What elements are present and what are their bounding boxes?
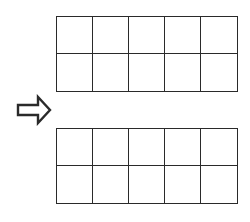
right-arrow-icon	[14, 94, 54, 126]
grid-cell	[57, 17, 93, 54]
grid-cell	[93, 17, 129, 54]
grid-cell	[165, 166, 201, 203]
grid-cell	[129, 17, 165, 54]
grid-cell	[201, 17, 237, 54]
grid-cell	[93, 54, 129, 91]
grid-cell	[165, 17, 201, 54]
grid-cell	[201, 54, 237, 91]
grid-cell	[57, 54, 93, 91]
grid-cell	[57, 166, 93, 203]
grid-cell	[165, 129, 201, 166]
grid-cell	[93, 129, 129, 166]
grid-cell	[129, 166, 165, 203]
grid-cell	[165, 54, 201, 91]
top-grid	[56, 16, 238, 92]
grid-cell	[201, 129, 237, 166]
grid-cell	[201, 166, 237, 203]
grid-cell	[93, 166, 129, 203]
bottom-grid	[56, 128, 238, 204]
grid-cell	[129, 54, 165, 91]
grid-cell	[129, 129, 165, 166]
grid-cell	[57, 129, 93, 166]
